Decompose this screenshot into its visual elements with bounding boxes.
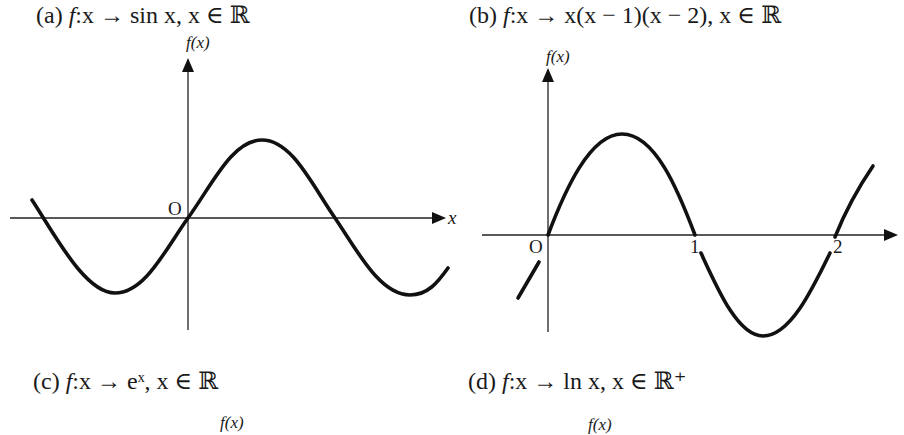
x-arrow-icon-b — [884, 229, 898, 241]
x-arrow-icon-a — [432, 212, 446, 224]
y-arrow-icon-a — [182, 58, 194, 72]
axes-a — [10, 68, 436, 330]
y-arrow-icon-b — [542, 68, 554, 82]
